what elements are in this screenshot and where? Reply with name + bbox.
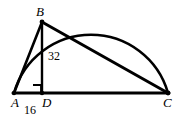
vertex-label-a: A <box>11 96 19 109</box>
vertex-label-b: B <box>36 5 44 18</box>
segment-bc <box>42 22 168 93</box>
measure-label-bd: 32 <box>48 50 60 62</box>
segment-ab <box>14 22 42 93</box>
vertex-label-c: C <box>163 96 172 109</box>
right-angle-icon <box>33 85 41 92</box>
geometry-figure: B A D C 16 32 <box>0 0 181 121</box>
vertex-dot-b <box>40 20 45 25</box>
vertex-label-d: D <box>42 96 51 109</box>
measure-label-ad: 16 <box>24 104 36 116</box>
